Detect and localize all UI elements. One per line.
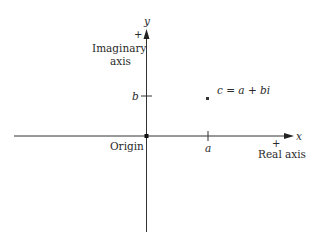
- real-axis-arrow-icon: [284, 133, 294, 139]
- imaginary-axis-label-line1: Imaginary: [92, 42, 146, 54]
- imaginary-axis-arrow-icon: [144, 29, 150, 39]
- complex-plane-canvas: [0, 0, 316, 248]
- y-positive-marker: +: [134, 30, 142, 40]
- origin-label: Origin: [110, 140, 144, 152]
- point-c-label: c = a + bi: [217, 84, 270, 96]
- point-c: [206, 97, 209, 100]
- x-tick-label-a: a: [205, 142, 211, 154]
- imaginary-axis-label-line2: axis: [110, 55, 131, 67]
- x-axis-label: x: [296, 130, 302, 142]
- y-axis-label: y: [144, 15, 150, 27]
- origin-dot: [145, 134, 149, 138]
- y-tick-label-b: b: [132, 90, 139, 102]
- real-axis-label: Real axis: [258, 148, 306, 160]
